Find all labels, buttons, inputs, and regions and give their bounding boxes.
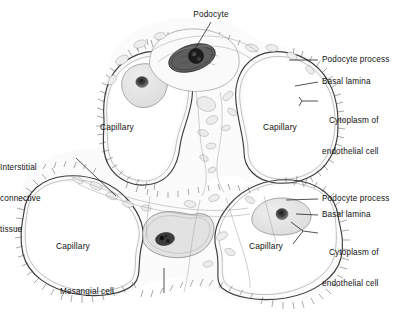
label-cytoplasm-bottom-line2: endothelial cell bbox=[322, 279, 379, 289]
label-capillary-top-right: Capillary bbox=[263, 122, 297, 132]
nucleus-bottom-right bbox=[276, 208, 288, 219]
label-podocyte: Podocyte bbox=[176, 10, 246, 20]
label-capillary-top-left: Capillary bbox=[100, 122, 134, 132]
nucleus-top-left bbox=[136, 77, 148, 88]
label-interstitial-line1: Interstitial bbox=[0, 163, 82, 173]
label-interstitial-connective-tissue: Interstitial connective tissue bbox=[0, 143, 82, 255]
label-capillary-bottom-right: Capillary bbox=[249, 241, 283, 251]
label-cytoplasm-top-line2: endothelial cell bbox=[322, 147, 379, 157]
label-cytoplasm-bottom-line1: Cytoplasm of bbox=[322, 248, 379, 258]
label-interstitial-line2: connective bbox=[0, 194, 82, 204]
glomerulus-figure: Podocyte Interstitial connective tissue … bbox=[0, 0, 408, 314]
label-cytoplasm-top-line1: Cytoplasm of bbox=[322, 116, 379, 126]
label-cytoplasm-endothelial-top: Cytoplasm of endothelial cell bbox=[322, 96, 379, 178]
podocyte-nucleolus bbox=[188, 48, 203, 63]
label-cytoplasm-endothelial-bottom: Cytoplasm of endothelial cell bbox=[322, 228, 379, 310]
label-interstitial-line3: tissue bbox=[0, 225, 82, 235]
label-podocyte-process-bottom: Podocyte process bbox=[322, 194, 389, 204]
label-mesangial-cell: Mesangial cell bbox=[60, 287, 170, 297]
label-basal-lamina-bottom: Basal lamina bbox=[322, 210, 371, 220]
label-basal-lamina-top: Basal lamina bbox=[322, 77, 371, 87]
label-capillary-bottom-left: Capillary bbox=[56, 241, 90, 251]
label-podocyte-process-top: Podocyte process bbox=[322, 55, 389, 65]
